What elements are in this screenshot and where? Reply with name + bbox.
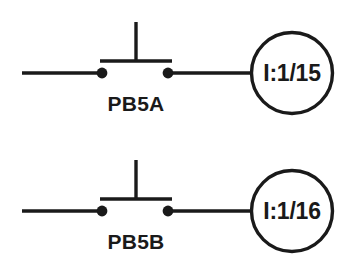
- terminal-address-label: I:1/15: [263, 60, 321, 86]
- device-label-pb5b: PB5B: [108, 230, 165, 253]
- terminal-dot-left: [97, 68, 108, 79]
- rung-pb5a: I:1/15 PB5A: [22, 22, 333, 115]
- terminal-address-label: I:1/16: [263, 198, 321, 224]
- terminal-dot-left: [97, 206, 108, 217]
- ladder-diagram: I:1/15 PB5A I:1/16 PB5B: [0, 0, 355, 274]
- rung-pb5b: I:1/16 PB5B: [22, 160, 333, 253]
- device-label-pb5a: PB5A: [108, 92, 165, 115]
